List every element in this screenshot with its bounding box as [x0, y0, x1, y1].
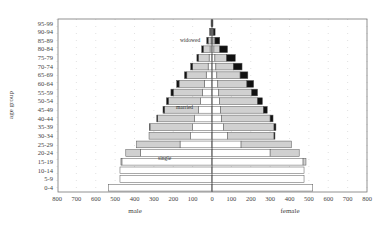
- bar-male-widowed: [202, 46, 204, 53]
- x-tick-label: 500: [110, 195, 120, 202]
- y-tick-label: 85-89: [38, 37, 53, 44]
- bar-female-widowed: [215, 37, 220, 44]
- bar-female-married: [213, 37, 215, 44]
- bar-female-married: [270, 150, 299, 157]
- bar-male-widowed: [171, 89, 173, 96]
- age-row-40-44: [157, 115, 273, 122]
- bar-female-married: [216, 63, 233, 70]
- bar-male-married: [158, 115, 195, 122]
- bar-male-single: [120, 167, 212, 174]
- bar-female-single: [212, 184, 313, 191]
- bar-male-married: [150, 124, 193, 131]
- bar-male-widowed: [166, 98, 168, 105]
- bar-female-widowed: [220, 46, 228, 53]
- bar-male-married: [187, 72, 206, 79]
- x-tick-label: 100: [227, 195, 237, 202]
- bar-male-married: [193, 63, 209, 70]
- bar-female-single: [212, 124, 224, 131]
- bar-female-single: [212, 150, 270, 157]
- y-tick-label: 95-99: [38, 20, 53, 27]
- bar-male-widowed: [210, 29, 211, 36]
- x-axis-label-male: male: [128, 207, 142, 215]
- bar-male-widowed: [184, 72, 186, 79]
- x-tick-label: 300: [149, 195, 159, 202]
- y-tick-label: 5-9: [44, 175, 53, 182]
- y-axis-label: age group: [7, 91, 15, 119]
- y-tick-label: 45-49: [38, 106, 53, 113]
- y-axis-ticks: 0-45-910-1415-1920-2425-2930-3435-3940-4…: [38, 20, 54, 191]
- age-row-85-89: [207, 37, 220, 44]
- age-row-25-29: [136, 141, 291, 148]
- bar-male-single: [140, 150, 212, 157]
- bar-male-married: [198, 55, 209, 62]
- bar-male-single: [200, 98, 212, 105]
- plot-area: [58, 19, 367, 192]
- bar-female-married: [214, 46, 220, 53]
- bar-male-widowed: [177, 81, 179, 88]
- bar-female-single: [212, 141, 241, 148]
- x-tick-label: 700: [343, 195, 353, 202]
- bar-male-widowed: [207, 37, 208, 44]
- age-row-65-69: [184, 72, 247, 79]
- age-row-35-39: [150, 124, 276, 131]
- bar-female-single: [212, 98, 220, 105]
- y-tick-label: 0-4: [44, 184, 53, 191]
- x-tick-label: 300: [265, 195, 275, 202]
- population-pyramid-chart: 0-45-910-1415-1920-2425-2930-3435-3940-4…: [0, 0, 384, 228]
- bar-male-married: [136, 141, 180, 148]
- age-row-0-4: [108, 184, 312, 191]
- bar-female-single: [212, 81, 218, 88]
- y-tick-label: 60-64: [38, 80, 54, 87]
- bar-male-widowed: [157, 115, 158, 122]
- age-row-80-84: [202, 46, 228, 53]
- y-tick-label: 40-44: [38, 115, 54, 122]
- bar-female-married: [218, 81, 247, 88]
- age-row-55-59: [171, 89, 258, 96]
- y-tick-label: 30-34: [38, 132, 54, 139]
- x-tick-label: 0: [210, 195, 213, 202]
- bar-female-single: [212, 89, 219, 96]
- bar-male-married: [203, 46, 210, 53]
- y-tick-label: 70-74: [38, 63, 54, 70]
- y-tick-label: 25-29: [38, 141, 53, 148]
- bar-female-widowed: [258, 98, 263, 105]
- bar-male-single: [120, 176, 212, 183]
- bar-female-married: [217, 72, 240, 79]
- bar-male-married: [121, 158, 122, 165]
- x-tick-label: 800: [52, 195, 62, 202]
- x-tick-label: 200: [246, 195, 256, 202]
- age-row-20-24: [126, 150, 299, 157]
- bar-female-single: [212, 63, 216, 70]
- bar-female-single: [212, 158, 303, 165]
- bar-female-widowed: [240, 72, 248, 79]
- bar-female-single: [212, 167, 304, 174]
- age-row-75-79: [197, 55, 235, 62]
- x-tick-label: 400: [285, 195, 295, 202]
- bar-female-widowed: [212, 20, 213, 27]
- bar-female-single: [212, 106, 221, 113]
- y-tick-label: 15-19: [38, 158, 53, 165]
- y-tick-label: 55-59: [38, 89, 53, 96]
- bar-female-widowed: [270, 115, 273, 122]
- x-tick-label: 500: [304, 195, 314, 202]
- bar-male-married: [173, 89, 202, 96]
- x-tick-label: 600: [323, 195, 333, 202]
- annotation-married: married: [176, 104, 193, 110]
- x-tick-label: 700: [72, 195, 82, 202]
- bar-male-single: [209, 55, 212, 62]
- bar-female-widowed: [227, 55, 236, 62]
- bar-female-married: [221, 106, 264, 113]
- bar-male-single: [204, 81, 212, 88]
- y-tick-label: 65-69: [38, 71, 53, 78]
- bar-female-married: [228, 132, 275, 139]
- bar-female-single: [212, 55, 215, 62]
- bar-female-widowed: [274, 124, 276, 131]
- bar-female-widowed: [263, 106, 267, 113]
- bar-male-married: [208, 37, 211, 44]
- bar-female-married: [241, 141, 291, 148]
- bar-female-married: [222, 115, 270, 122]
- bar-female-widowed: [233, 63, 242, 70]
- bar-female-married: [303, 158, 306, 165]
- bar-female-widowed: [274, 132, 275, 139]
- bar-male-single: [180, 141, 212, 148]
